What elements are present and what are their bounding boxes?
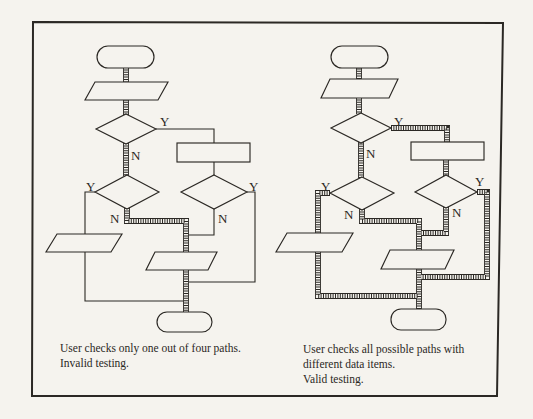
process-rectangle	[411, 142, 484, 160]
process-rectangle	[177, 143, 250, 162]
decision2-yes-label: Y	[86, 179, 96, 194]
start-terminal	[331, 46, 388, 68]
decision-diamond-2	[330, 177, 394, 210]
caption-invalid-line2: Invalid testing.	[60, 356, 241, 371]
decision3-no-label: N	[452, 205, 462, 220]
scanned-figure-page: Y N Y N Y N Y N Y N Y N	[0, 0, 533, 419]
decision3-yes-label: Y	[475, 174, 485, 189]
flowchart-valid-testing: Y N Y N Y N	[276, 46, 487, 330]
decision2-no-label: N	[344, 207, 354, 222]
decision-diamond-3	[181, 175, 247, 209]
decision1-yes-label: Y	[394, 114, 404, 129]
decision-diamond-1	[331, 113, 391, 143]
input-parallelogram	[85, 82, 168, 100]
output-parallelogram-left	[276, 233, 353, 252]
end-terminal	[391, 309, 446, 330]
decision-diamond-2	[95, 175, 159, 209]
flowchart-invalid-testing: Y N Y N Y N	[46, 46, 259, 332]
decision1-no-label: N	[131, 148, 141, 163]
output-parallelogram-left	[46, 234, 122, 252]
figure-border-frame	[32, 22, 503, 396]
caption-valid-line2: different data items.	[303, 357, 464, 372]
start-terminal	[97, 46, 154, 68]
caption-invalid-line1: User checks only one out of four paths.	[60, 341, 241, 356]
output-parallelogram-center	[146, 252, 217, 270]
decision-diamond-3	[415, 175, 477, 208]
caption-valid-line1: User checks all possible paths with	[303, 342, 464, 357]
caption-valid-testing: User checks all possible paths with diff…	[303, 342, 464, 387]
decision3-yes-label: Y	[249, 179, 259, 194]
input-parallelogram	[321, 79, 398, 98]
decision-diamond-1	[96, 114, 156, 144]
end-terminal	[157, 312, 212, 332]
caption-invalid-testing: User checks only one out of four paths. …	[60, 341, 241, 371]
decision1-yes-label: Y	[160, 114, 170, 129]
decision2-yes-label: Y	[321, 179, 331, 194]
output-parallelogram-center	[381, 250, 454, 269]
decision2-no-label: N	[110, 211, 120, 226]
caption-valid-line3: Valid testing.	[303, 372, 464, 387]
decision1-no-label: N	[366, 146, 376, 161]
decision3-no-label: N	[218, 211, 228, 226]
